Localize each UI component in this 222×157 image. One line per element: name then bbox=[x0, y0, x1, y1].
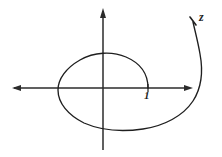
spiral-curve bbox=[58, 22, 202, 130]
figure-container: 1 z bbox=[0, 0, 222, 157]
spiral-figure-svg bbox=[0, 0, 222, 157]
curve-label-z: z bbox=[199, 11, 204, 23]
x-axis-right-arrowhead bbox=[184, 85, 193, 91]
y-axis-up-arrowhead bbox=[100, 8, 106, 18]
x-axis-left-arrowhead bbox=[12, 85, 21, 91]
axis-label-one: 1 bbox=[144, 90, 150, 101]
